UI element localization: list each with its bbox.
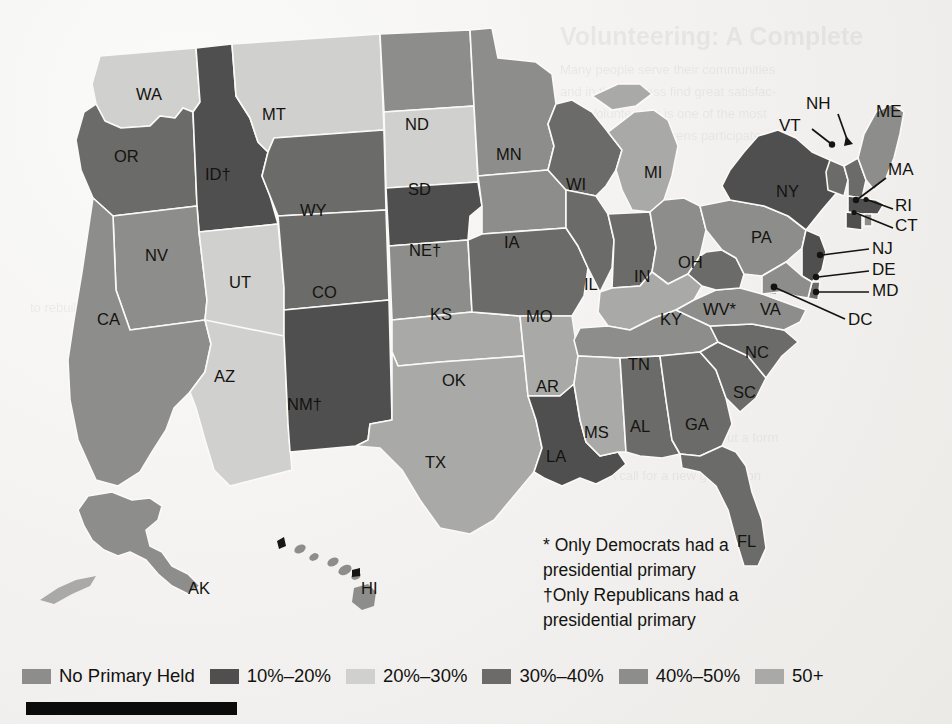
- state-label-NY: NY: [776, 182, 799, 200]
- legend-swatch: [346, 669, 375, 684]
- state-label-AK: AK: [188, 579, 210, 597]
- legend-swatch: [210, 669, 239, 684]
- legend-item[interactable]: 10%–20%: [210, 665, 331, 687]
- legend-label: 50+: [792, 665, 823, 687]
- state-label-NC: NC: [745, 343, 769, 361]
- state-label-ME: ME: [876, 102, 902, 121]
- state-label-MS: MS: [584, 423, 609, 441]
- state-label-VT: VT: [779, 116, 801, 135]
- state-label-CA: CA: [97, 310, 120, 328]
- state-label-PA: PA: [751, 228, 772, 246]
- state-label-NH: NH: [806, 94, 831, 113]
- state-label-OK: OK: [442, 371, 466, 389]
- state-label-WY: WY: [300, 201, 327, 219]
- state-label-TX: TX: [425, 453, 446, 471]
- state-label-HI: HI: [361, 579, 378, 597]
- state-label-GA: GA: [685, 415, 709, 433]
- hawaii-dark-islet: [277, 537, 286, 549]
- state-label-SC: SC: [733, 383, 756, 401]
- footnote-line-1: * Only Democrats had a: [543, 533, 783, 558]
- legend-swatch: [22, 669, 51, 684]
- state-label-NJ: NJ: [872, 239, 893, 258]
- bottom-rule: [26, 702, 237, 715]
- legend-label: No Primary Held: [59, 665, 195, 687]
- footnote-line-2: presidential primary: [543, 558, 783, 583]
- state-label-WA: WA: [136, 85, 162, 103]
- state-label-NM: NM†: [287, 395, 322, 413]
- state-label-KS: KS: [430, 305, 452, 323]
- state-label-MA: MA: [888, 160, 914, 179]
- legend-item[interactable]: 50+: [755, 665, 823, 687]
- legend-label: 30%–40%: [519, 665, 603, 687]
- state-label-VA: VA: [760, 300, 781, 318]
- state-label-WI: WI: [566, 175, 586, 193]
- legend-item[interactable]: 30%–40%: [482, 665, 603, 687]
- state-label-DC: DC: [848, 310, 873, 329]
- state-label-TN: TN: [628, 355, 650, 373]
- state-label-SD: SD: [408, 180, 431, 198]
- state-label-CO: CO: [312, 283, 337, 301]
- state-label-CT: CT: [895, 216, 918, 235]
- state-label-LA: LA: [546, 447, 566, 465]
- state-label-MN: MN: [496, 145, 522, 163]
- state-label-MT: MT: [262, 105, 286, 123]
- state-label-IA: IA: [504, 233, 520, 251]
- map-legend: No Primary Held 10%–20% 20%–30% 30%–40% …: [22, 665, 942, 687]
- state-label-KY: KY: [660, 310, 682, 328]
- state-AK-aleutians[interactable]: [40, 576, 96, 604]
- state-label-IN: IN: [634, 267, 651, 285]
- legend-label: 40%–50%: [656, 665, 740, 687]
- state-label-WV: WV*: [703, 300, 737, 318]
- state-label-NE: NE†: [409, 241, 441, 259]
- footnote-line-4: presidential primary: [543, 608, 783, 633]
- legend-item[interactable]: 20%–30%: [346, 665, 467, 687]
- legend-item[interactable]: 40%–50%: [619, 665, 740, 687]
- legend-label: 20%–30%: [383, 665, 467, 687]
- legend-swatch: [619, 669, 648, 684]
- us-choropleth-map: WA OR ID† MT WY ND SD MN WI MI IA NE† IL…: [0, 0, 952, 660]
- state-label-OR: OR: [114, 147, 139, 165]
- hawaii-dark-islet-2: [352, 568, 360, 577]
- state-label-MI: MI: [644, 163, 662, 181]
- state-label-UT: UT: [229, 273, 251, 291]
- state-label-DE: DE: [872, 260, 896, 279]
- legend-item[interactable]: No Primary Held: [22, 665, 195, 687]
- state-HI[interactable]: [293, 543, 376, 610]
- state-label-MO: MO: [526, 307, 553, 325]
- state-label-NV: NV: [145, 246, 168, 264]
- state-label-ID: ID†: [205, 165, 231, 183]
- state-label-RI: RI: [895, 196, 912, 215]
- state-label-ND: ND: [405, 115, 429, 133]
- legend-swatch: [482, 669, 511, 684]
- footnote-block: * Only Democrats had a presidential prim…: [543, 533, 783, 633]
- legend-label: 10%–20%: [247, 665, 331, 687]
- footnote-line-3: †Only Republicans had a: [543, 583, 783, 608]
- state-label-AZ: AZ: [214, 367, 235, 385]
- state-label-MD: MD: [872, 281, 898, 300]
- state-label-AL: AL: [630, 417, 650, 435]
- state-label-IL: IL: [584, 275, 598, 293]
- legend-swatch: [755, 669, 784, 684]
- state-label-OH: OH: [678, 253, 703, 271]
- state-label-AR: AR: [536, 377, 559, 395]
